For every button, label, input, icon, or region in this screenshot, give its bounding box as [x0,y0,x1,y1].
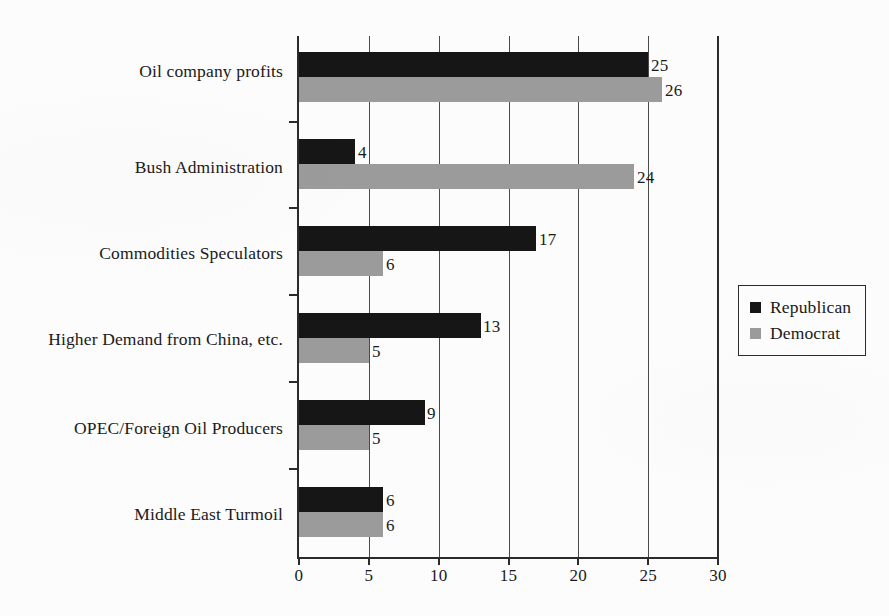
bar-democrat-4 [299,425,369,450]
bar-republican-0 [299,52,648,77]
x-axis-tick-label-0: 0 [279,566,319,586]
gray-square-swatch-icon [750,328,761,339]
y-axis-separator-tick [289,207,298,209]
bar-democrat-5 [299,512,383,537]
bar-democrat-0 [299,77,662,102]
bar-democrat-3 [299,338,369,363]
x-axis-tick-label-15: 15 [489,566,529,586]
gridline-25 [648,36,649,558]
bar-value-republican-5: 6 [386,492,395,510]
legend-label-republican: Republican [770,297,851,317]
bar-value-republican-3: 13 [483,318,501,336]
category-label-4: OPEC/Foreign Oil Producers [12,417,297,439]
gridline-15 [509,36,510,558]
category-label-0: Oil company profits [12,60,297,82]
x-axis-tick-label-10: 10 [419,566,459,586]
y-axis-separator-tick [289,381,298,383]
category-label-5: Middle East Turmoil [12,503,297,525]
bar-republican-5 [299,487,383,512]
bar-democrat-2 [299,251,383,276]
black-square-swatch-icon [750,302,761,313]
legend-entry-democrat: Democrat [750,320,851,346]
chart-legend: Republican Democrat [738,285,866,356]
x-axis-tick-15 [508,558,510,565]
x-axis-tick-10 [438,558,440,565]
bar-value-republican-1: 4 [358,144,367,162]
bar-republican-2 [299,226,536,251]
x-axis-tick-label-20: 20 [558,566,598,586]
bar-value-democrat-4: 5 [372,430,381,448]
gridline-30 [717,36,719,558]
y-axis-separator-tick [289,468,298,470]
x-axis-tick-25 [647,558,649,565]
x-axis-tick-label-30: 30 [698,566,738,586]
bar-value-democrat-0: 26 [665,82,683,100]
bar-republican-4 [299,400,425,425]
bar-democrat-1 [299,164,634,189]
bar-value-republican-4: 9 [427,405,436,423]
bar-value-democrat-3: 5 [372,343,381,361]
x-axis-tick-30 [717,558,719,565]
bar-republican-1 [299,139,355,164]
x-axis-tick-label-5: 5 [349,566,389,586]
gridline-5 [369,36,370,558]
bar-value-republican-0: 25 [651,57,669,75]
bar-value-democrat-2: 6 [386,256,395,274]
bar-value-democrat-1: 24 [637,169,655,187]
x-axis-tick-label-25: 25 [628,566,668,586]
x-axis-tick-5 [368,558,370,565]
category-label-3: Higher Demand from China, etc. [12,328,297,350]
legend-label-democrat: Democrat [770,323,840,343]
bar-value-democrat-5: 6 [386,517,395,535]
bar-republican-3 [299,313,481,338]
plot-area: 25 26 4 24 17 6 13 5 9 5 6 6 [299,36,718,558]
legend-entry-republican: Republican [750,294,851,320]
gridline-20 [578,36,579,558]
bar-value-republican-2: 17 [539,231,557,249]
y-axis-separator-tick [289,121,298,123]
x-axis-tick-20 [577,558,579,565]
category-axis-labels: Oil company profits Bush Administration … [0,0,297,616]
category-label-2: Commodities Speculators [12,242,297,264]
chart-page: Oil company profits Bush Administration … [0,0,889,616]
gridline-10 [439,36,440,558]
x-axis-tick-0 [298,558,300,565]
y-axis-separator-tick [289,294,298,296]
category-label-1: Bush Administration [12,156,297,178]
